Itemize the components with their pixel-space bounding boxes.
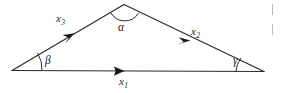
scan-artifact-mark-bottom <box>272 24 273 35</box>
angle-label-beta: β <box>45 55 51 67</box>
angle-label-alpha: α <box>118 22 124 34</box>
angle-label-gamma: γ <box>233 55 238 67</box>
side-label-x2: x2 <box>191 26 200 37</box>
scan-artifact-mark-top <box>272 4 273 15</box>
angle-arc-alpha <box>111 12 139 20</box>
side-label-x3-subscript: 3 <box>61 18 65 27</box>
triangle-diagram-canvas <box>0 0 281 93</box>
arrowhead-x3 <box>63 33 75 43</box>
side-x1-line <box>12 71 264 72</box>
side-x3-line <box>12 5 124 71</box>
side-label-x2-subscript: 2 <box>196 31 200 40</box>
side-label-x1: x1 <box>119 76 128 87</box>
side-x2-line <box>124 5 264 72</box>
triangle-vector-figure: x3 x2 x1 α β γ <box>0 0 281 93</box>
arrowhead-x2 <box>177 37 190 44</box>
side-label-x3: x3 <box>56 13 65 24</box>
side-label-x1-subscript: 1 <box>124 81 128 90</box>
